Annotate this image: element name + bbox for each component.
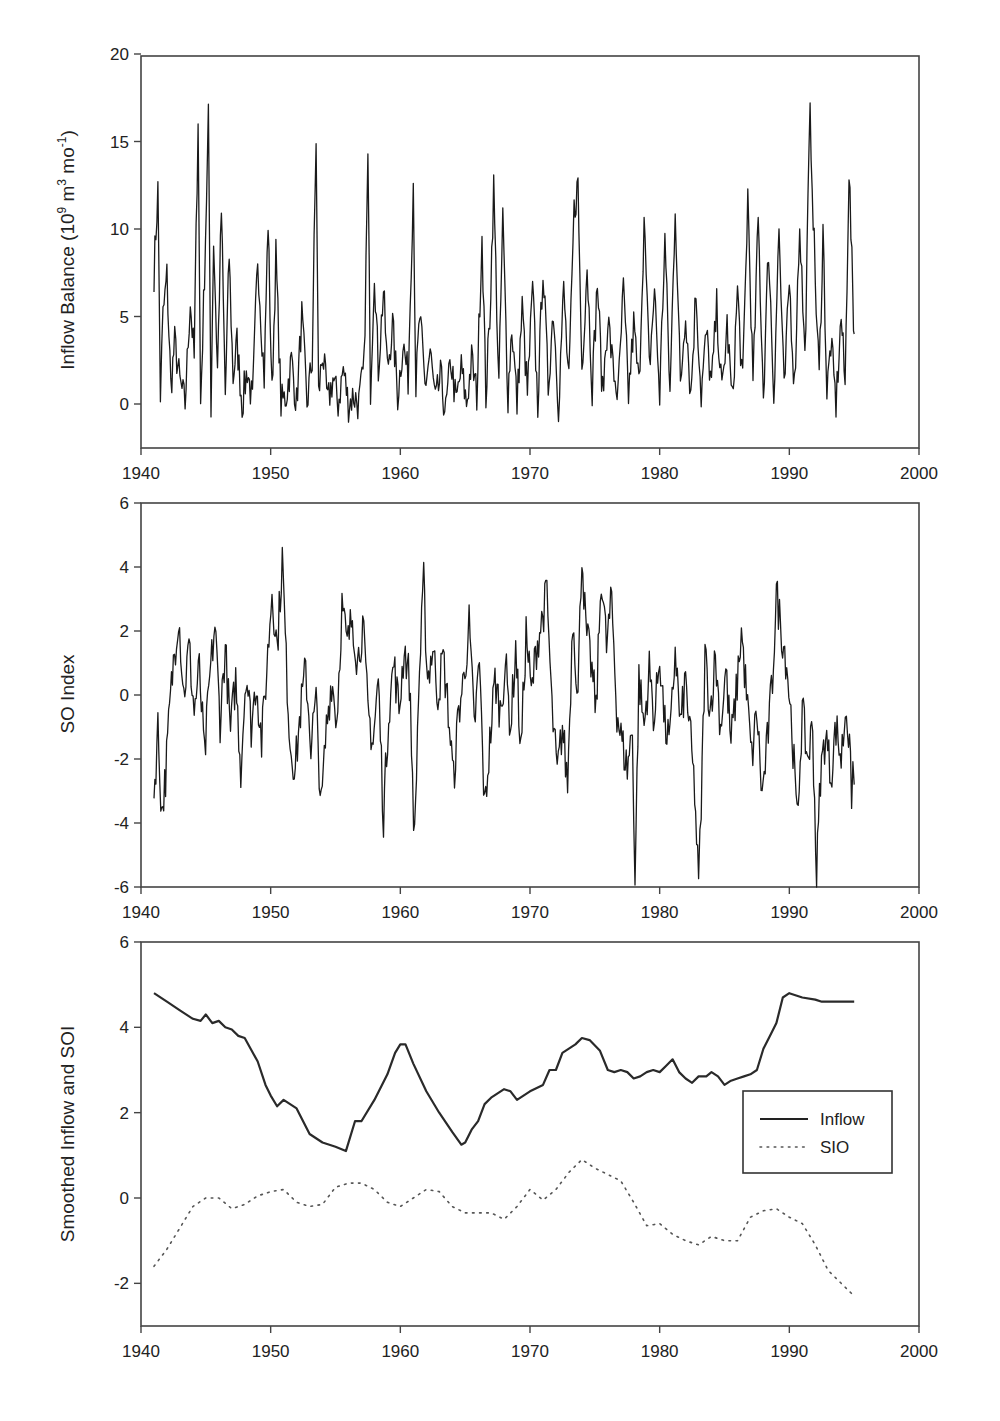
legend: Inflow SIO [743,1091,892,1173]
y-tick-label: -2 [114,1274,129,1293]
y-tick-label: 5 [120,308,129,327]
x-tick-label: 1970 [511,464,549,483]
y-tick-label: 0 [120,395,129,414]
y-axis-title-inflow: Inflow Balance (109 m3 mo-1) [55,130,78,370]
figure: Inflow Balance (109 m3 mo-1) 20151050194… [0,0,1000,1421]
y-tick-label: 0 [120,686,129,705]
x-tick-label: 1990 [770,1342,808,1361]
x-tick-label: 2000 [900,464,938,483]
y-tick-label: -6 [114,878,129,897]
x-tick-label: 1960 [381,1342,419,1361]
y-tick-label: 10 [110,220,129,239]
y-tick-label: 6 [120,933,129,952]
x-tick-label: 1940 [122,464,160,483]
y-tick-label: 15 [110,133,129,152]
x-tick-label: 1950 [252,903,290,922]
legend-inflow-label: Inflow [820,1110,865,1129]
x-tick-label: 2000 [900,903,938,922]
x-tick-label: 2000 [900,1342,938,1361]
x-tick-label: 1970 [511,1342,549,1361]
so-index-line [154,547,854,887]
y-tick-label: 6 [120,494,129,513]
plot-frame [141,56,919,448]
x-tick-label: 1990 [770,464,808,483]
x-tick-label: 1990 [770,903,808,922]
plot-frame [141,503,919,887]
x-tick-label: 1970 [511,903,549,922]
x-tick-label: 1980 [641,464,679,483]
x-tick-label: 1940 [122,1342,160,1361]
legend-sio-label: SIO [820,1138,849,1157]
x-tick-label: 1960 [381,903,419,922]
x-tick-label: 1960 [381,464,419,483]
x-tick-label: 1980 [641,903,679,922]
y-tick-label: -2 [114,750,129,769]
x-tick-label: 1950 [252,464,290,483]
axes-inflow: 201510501940195019601970198019902000 [110,45,938,483]
y-axis-title-soi: SO Index [57,654,78,734]
legend-box [743,1091,892,1173]
inflow-balance-line [154,103,854,422]
panel-smoothed: Smoothed Inflow and SOI 6420-21940195019… [57,933,938,1361]
y-tick-label: 2 [120,1104,129,1123]
x-tick-label: 1980 [641,1342,679,1361]
panel-inflow: Inflow Balance (109 m3 mo-1) 20151050194… [55,45,938,483]
x-tick-label: 1950 [252,1342,290,1361]
y-tick-label: 4 [120,558,129,577]
smoothed-sio-line [154,1160,854,1297]
panel-soi: SO Index 6420-2-4-6194019501960197019801… [57,494,938,922]
y-tick-label: 20 [110,45,129,64]
y-tick-label: 0 [120,1189,129,1208]
y-tick-label: 4 [120,1018,129,1037]
x-tick-label: 1940 [122,903,160,922]
y-tick-label: -4 [114,814,129,833]
y-tick-label: 2 [120,622,129,641]
y-axis-title-smoothed: Smoothed Inflow and SOI [57,1026,78,1243]
